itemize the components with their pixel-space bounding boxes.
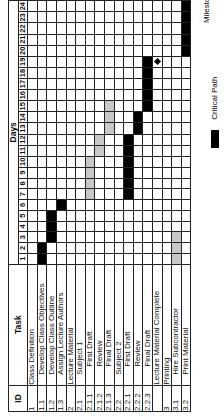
day-cell (56, 145, 66, 156)
day-cell (28, 56, 38, 67)
day-cell (104, 90, 114, 101)
day-number-5: 5 (18, 210, 28, 221)
day-cell (133, 67, 143, 78)
day-number-19: 19 (18, 56, 28, 67)
day-cell (162, 123, 172, 134)
day-cell (104, 253, 114, 264)
day-number-9: 9 (18, 167, 28, 178)
day-cell (56, 90, 66, 101)
day-cell (47, 253, 57, 264)
day-cell (152, 167, 162, 178)
day-cell (95, 112, 105, 123)
milestone-diamond-icon (154, 58, 161, 65)
day-cell (143, 178, 153, 189)
day-cell (95, 156, 105, 167)
day-cell (162, 167, 172, 178)
day-cell (172, 79, 182, 90)
day-cell (37, 123, 47, 134)
day-cell (56, 253, 66, 264)
day-cell (104, 243, 114, 254)
day-cell (85, 156, 95, 167)
day-cell (124, 67, 134, 78)
task-name: Develop Class Outline (47, 264, 57, 385)
day-cell (76, 56, 86, 67)
day-number-14: 14 (18, 112, 28, 123)
day-cell (104, 178, 114, 189)
day-cell (143, 134, 153, 145)
day-cell (47, 221, 57, 232)
day-cell (66, 232, 76, 243)
day-cell (143, 167, 153, 178)
day-cell (47, 210, 57, 221)
day-number-4: 4 (18, 221, 28, 232)
day-cell (133, 79, 143, 90)
day-cell (104, 134, 114, 145)
day-cell (28, 189, 38, 200)
day-cell (76, 200, 86, 211)
day-cell (152, 56, 162, 67)
day-cell (114, 12, 124, 23)
task-name: Final Draft (104, 264, 114, 385)
day-cell (172, 90, 182, 101)
day-cell (95, 189, 105, 200)
task-row: 2Lecture Material (66, 1, 76, 412)
day-cell (85, 90, 95, 101)
day-cell (28, 23, 38, 34)
day-cell (162, 90, 172, 101)
day-cell (124, 221, 134, 232)
day-cell (28, 101, 38, 112)
day-cell (172, 12, 182, 23)
task-name: Final Draft (143, 264, 153, 385)
day-cell (152, 178, 162, 189)
day-cell (47, 200, 57, 211)
day-cell (37, 1, 47, 12)
day-cell (28, 243, 38, 254)
day-number-3: 3 (18, 232, 28, 243)
task-name: Class Definition (28, 264, 38, 385)
day-cell (172, 23, 182, 34)
day-cell (95, 90, 105, 101)
day-cell (47, 189, 57, 200)
day-cell (114, 243, 124, 254)
day-cell (143, 12, 153, 23)
day-cell (124, 134, 134, 145)
day-cell (104, 156, 114, 167)
day-cell (172, 145, 182, 156)
day-cell (76, 167, 86, 178)
day-cell (104, 101, 114, 112)
day-cell (95, 221, 105, 232)
day-cell (181, 23, 191, 34)
day-cell (56, 123, 66, 134)
day-cell (56, 1, 66, 12)
day-cell (124, 12, 134, 23)
day-cell (162, 189, 172, 200)
day-cell (114, 178, 124, 189)
day-cell (85, 79, 95, 90)
day-cell (143, 232, 153, 243)
day-number-13: 13 (18, 123, 28, 134)
day-cell (114, 45, 124, 56)
day-cell (76, 134, 86, 145)
day-cell (172, 34, 182, 45)
day-cell (37, 189, 47, 200)
day-cell (181, 12, 191, 23)
day-cell (181, 145, 191, 156)
day-cell (47, 112, 57, 123)
day-cell (85, 67, 95, 78)
day-cell (76, 178, 86, 189)
day-cell (172, 210, 182, 221)
day-cell (76, 67, 86, 78)
day-number-18: 18 (18, 67, 28, 78)
day-cell (56, 221, 66, 232)
day-cell (66, 123, 76, 134)
day-cell (143, 112, 153, 123)
day-cell (181, 1, 191, 12)
task-row: 3.2Print Material (181, 1, 191, 412)
day-cell (85, 112, 95, 123)
day-cell (124, 34, 134, 45)
day-cell (133, 112, 143, 123)
day-cell (56, 34, 66, 45)
day-cell (37, 56, 47, 67)
day-cell (56, 23, 66, 34)
day-cell (85, 56, 95, 67)
